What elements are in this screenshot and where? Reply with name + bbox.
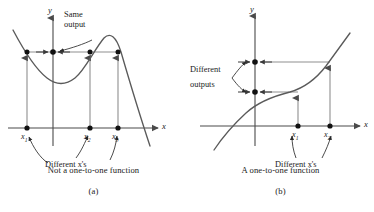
panel-a-graphic — [0, 0, 187, 212]
callout-different-outputs-upper — [232, 62, 246, 78]
x-tick-x2-sub: 2 — [88, 137, 91, 143]
cubic-curve-a — [13, 30, 150, 146]
x-tick-label-x1-a: x1 — [21, 132, 27, 143]
same-output-label-line2: output — [64, 20, 85, 30]
x-axis-dot-x1 — [24, 125, 29, 130]
panel-b-caption: A one-to-one function — [187, 165, 374, 175]
different-outputs-label-line1: Different — [190, 65, 221, 75]
y-axis-label-b: y — [250, 4, 254, 14]
callout-same-output — [60, 40, 92, 51]
y-axis-output-dot-lower — [252, 89, 258, 95]
x-tick-x1-sub: 1 — [25, 137, 28, 143]
panel-b-letter: (b) — [187, 186, 374, 196]
x-axis-label-b: x — [364, 119, 368, 129]
shared-output-dot — [50, 49, 56, 55]
curve-dot-x2 — [88, 50, 93, 55]
same-output-label-line1: Same — [64, 10, 83, 20]
x-tick-label-x2-b: x2 — [324, 130, 330, 141]
y-axis-label-a: y — [48, 5, 52, 15]
panel-one-to-one: y x Different outputs x1 x2 Different x'… — [187, 0, 374, 212]
curve-dot-x1 — [25, 50, 30, 55]
x-axis-dot-x2 — [87, 125, 92, 130]
panel-a-letter: (a) — [0, 186, 187, 196]
x-axis-dot-x1-b — [295, 123, 300, 128]
x-tick-x1-sub-b: 1 — [296, 135, 299, 141]
x-tick-label-x1-b: x1 — [292, 130, 298, 141]
panel-a-caption: Not a one-to-one function — [0, 165, 187, 175]
curve-dot-x3 — [116, 50, 121, 55]
y-axis-output-dot-upper — [252, 59, 258, 65]
x-tick-x2-sub-b: 2 — [328, 135, 331, 141]
panel-not-one-to-one: y x Same output x1 x2 x3 Different x's N… — [0, 0, 187, 212]
x-axis-label-a: x — [162, 121, 166, 131]
x-tick-label-x3-a: x3 — [112, 132, 118, 143]
x-axis-dot-x2-b — [327, 123, 332, 128]
x-tick-x3-sub: 3 — [116, 137, 119, 143]
x-axis-dot-x3 — [115, 125, 120, 130]
callout-different-outputs-lower — [232, 78, 246, 92]
x-tick-label-x2-a: x2 — [84, 132, 90, 143]
panel-b-graphic — [187, 0, 374, 212]
different-outputs-label-line2: outputs — [190, 80, 215, 90]
